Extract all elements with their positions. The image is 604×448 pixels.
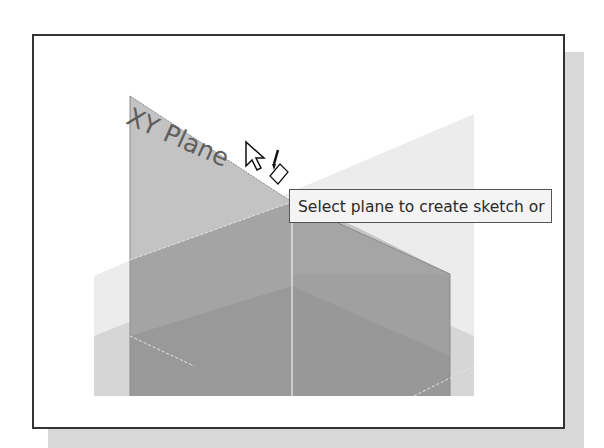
tooltip: Select plane to create sketch or [289,189,552,223]
reference-planes [34,36,565,429]
select-cursor-icon [244,140,294,190]
graphics-viewport[interactable]: XY Plane Select plane to create sketch o… [32,34,565,429]
